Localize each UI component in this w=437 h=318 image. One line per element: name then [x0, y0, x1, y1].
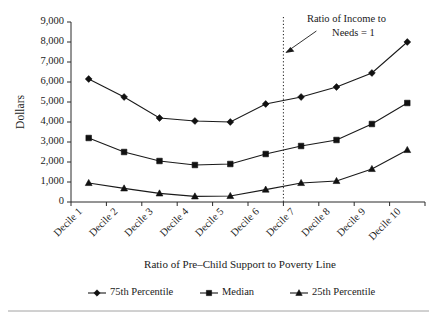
x-tick-label: Decile 10 [366, 206, 402, 242]
data-point-marker [369, 165, 376, 171]
data-point-marker [263, 151, 269, 157]
line-chart: 01,0002,0003,0004,0005,0006,0007,0008,00… [0, 0, 437, 318]
legend-label-1: 75th Percentile [110, 286, 174, 297]
series-line-2 [89, 103, 408, 165]
y-tick-label: 3,000 [40, 135, 64, 146]
annotation-line-1: Ratio of Income to [307, 13, 386, 24]
x-tick-label: Decile 9 [335, 206, 368, 239]
data-point-marker [85, 179, 92, 185]
data-point-marker [85, 76, 92, 83]
data-point-marker [298, 143, 304, 149]
data-point-marker [86, 135, 92, 141]
x-tick-label: Decile 7 [264, 206, 297, 239]
x-tick-label: Decile 4 [158, 205, 191, 238]
y-tick-label: 8,000 [40, 35, 64, 46]
x-tick-label: Decile 1 [51, 206, 84, 239]
y-tick-label: 7,000 [40, 55, 64, 66]
x-tick-label: Decile 2 [87, 206, 120, 239]
data-point-marker [334, 137, 340, 143]
x-tick-label: Decile 5 [193, 206, 226, 239]
annotation-line-2: Needs = 1 [332, 27, 375, 38]
y-tick-label: 1,000 [40, 175, 64, 186]
y-tick-label: 2,000 [40, 155, 64, 166]
data-point-marker [333, 84, 340, 91]
legend-label-2: Median [222, 286, 255, 297]
y-axis-title: Dollars [14, 95, 26, 129]
data-point-marker [228, 161, 234, 167]
y-tick-label: 4,000 [40, 115, 64, 126]
legend-label-3: 25th Percentile [312, 286, 376, 297]
data-point-marker [121, 94, 128, 101]
x-axis-title: Ratio of Pre–Child Support to Poverty Li… [144, 258, 336, 270]
y-tick-label: 5,000 [40, 95, 64, 106]
data-point-marker [192, 118, 199, 125]
data-point-marker [404, 146, 411, 152]
data-point-marker [156, 115, 163, 122]
data-point-marker [298, 94, 305, 101]
data-point-marker [157, 158, 163, 164]
series-line-3 [89, 150, 408, 196]
y-tick-label: 6,000 [40, 75, 64, 86]
y-tick-label: 0 [59, 195, 64, 206]
annotation-arrowhead [285, 47, 294, 53]
data-point-marker [405, 100, 411, 106]
chart-container: 01,0002,0003,0004,0005,0006,0007,0008,00… [0, 0, 437, 318]
legend-marker-2 [206, 290, 211, 295]
data-point-marker [227, 119, 234, 126]
series-line-1 [89, 42, 408, 122]
data-point-marker [262, 101, 269, 108]
data-point-marker [369, 121, 375, 127]
legend-marker-1 [94, 290, 100, 296]
x-tick-label: Decile 8 [299, 206, 332, 239]
y-tick-label: 9,000 [40, 15, 64, 26]
x-tick-label: Decile 3 [122, 206, 155, 239]
data-point-marker [121, 149, 127, 155]
x-tick-label: Decile 6 [228, 206, 261, 239]
data-point-marker [192, 162, 198, 168]
